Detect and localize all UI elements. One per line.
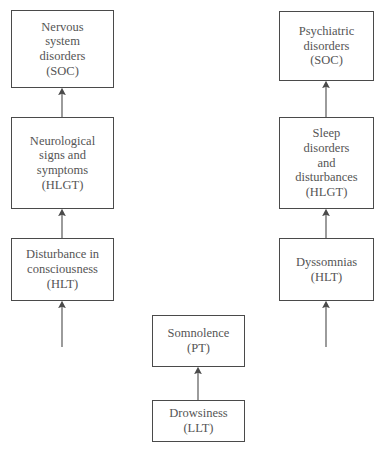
node-label: Nervous system disorders (SOC)	[40, 20, 86, 79]
node-label: Disturbance in consciousness (HLT)	[26, 247, 99, 291]
node-somnolence-pt[interactable]: Somnolence (PT)	[152, 315, 245, 367]
node-dyssomnias-hlt[interactable]: Dyssomnias (HLT)	[279, 238, 374, 301]
node-label: Sleep disorders and disturbances (HLGT)	[295, 126, 357, 200]
node-label: Somnolence (PT)	[168, 326, 230, 356]
node-label: Psychiatric disorders (SOC)	[299, 24, 355, 68]
node-sleep-disorders-and-disturbances-hlgt[interactable]: Sleep disorders and disturbances (HLGT)	[279, 117, 374, 209]
node-disturbance-in-consciousness-hlt[interactable]: Disturbance in consciousness (HLT)	[11, 238, 114, 301]
node-neurological-signs-and-symptoms-hlgt[interactable]: Neurological signs and symptoms (HLGT)	[11, 117, 114, 209]
node-drowsiness-llt[interactable]: Drowsiness (LLT)	[152, 400, 245, 442]
node-label: Drowsiness (LLT)	[169, 406, 227, 436]
node-label: Dyssomnias (HLT)	[296, 255, 357, 285]
node-nervous-system-disorders-soc[interactable]: Nervous system disorders (SOC)	[11, 10, 114, 88]
meddra-hierarchy-diagram: Nervous system disorders (SOC) Neurologi…	[0, 0, 384, 450]
node-psychiatric-disorders-soc[interactable]: Psychiatric disorders (SOC)	[279, 11, 374, 81]
node-label: Neurological signs and symptoms (HLGT)	[30, 134, 95, 193]
